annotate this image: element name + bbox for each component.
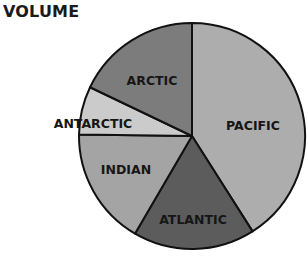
slice-label-arctic: ARCTIC	[127, 73, 178, 88]
slice-label-pacific: PACIFIC	[226, 118, 280, 133]
pie-chart: PACIFICATLANTICINDIANANTARCTICARCTIC	[0, 0, 308, 260]
slice-label-indian: INDIAN	[101, 162, 151, 177]
slice-label-antarctic: ANTARCTIC	[54, 116, 133, 131]
slice-label-atlantic: ATLANTIC	[159, 212, 227, 227]
